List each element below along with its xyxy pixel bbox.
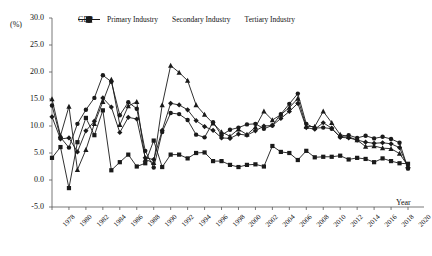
y-tick-label: 0.0	[12, 175, 44, 184]
y-tick-label: 5.0	[12, 148, 44, 157]
y-tick-label: 10.0	[12, 121, 44, 130]
y-tick-label: 30.0	[12, 13, 44, 22]
y-tick-label: 20.0	[12, 67, 44, 76]
y-tick-label: 25.0	[12, 40, 44, 49]
y-tick-label: 15.0	[12, 94, 44, 103]
y-tick-label: -5.0	[12, 202, 44, 211]
line-chart: (%) Year GDP Primary Industry Secondary …	[0, 0, 432, 256]
series-primary-industry	[50, 108, 410, 190]
